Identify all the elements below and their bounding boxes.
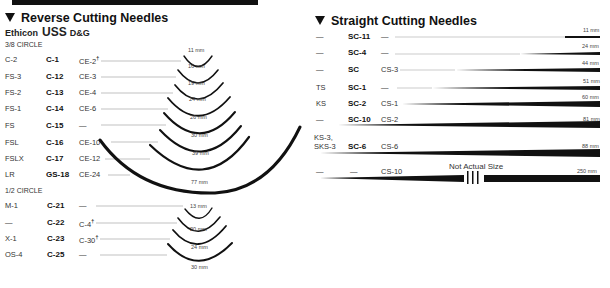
uss-cell: SC-2 [348, 99, 366, 108]
dg-cell: — [381, 32, 389, 41]
not-actual-size-note: Not Actual Size [449, 162, 503, 171]
ethicon-cell: — [316, 32, 324, 41]
size-label: 88 mm [582, 143, 599, 149]
ethicon-cell: — [316, 48, 324, 57]
uss-cell: SC-11 [348, 32, 370, 41]
dg-cell: CS-1 [381, 99, 398, 108]
title-text: Straight Cutting Needles [331, 14, 477, 28]
needle-diagram [0, 0, 610, 288]
uss-cell: SC-1 [348, 83, 366, 92]
ethicon-cell: — [316, 167, 324, 176]
uss-cell: SC [348, 65, 359, 74]
dg-cell: — [381, 48, 389, 57]
size-label: 30 mm [191, 132, 208, 138]
ethicon-cell: — [316, 65, 324, 74]
dg-cell: CS-2 [381, 115, 398, 124]
triangle-down-icon [315, 16, 325, 25]
size-label: 51 mm [583, 78, 600, 84]
size-label: 39 mm [192, 150, 209, 156]
size-label: 77 mm [191, 179, 208, 185]
ethicon-cell: KS [316, 99, 326, 108]
ethicon-cell: — [316, 115, 324, 124]
size-label: 24 mm [582, 43, 599, 49]
size-label: 81 mm [583, 116, 600, 122]
uss-cell: SC-4 [348, 48, 366, 57]
dg-cell: CS-10 [381, 167, 402, 176]
size-label: 250 mm [577, 168, 597, 174]
size-label: 26 mm [190, 114, 207, 120]
size-label: 60 mm [582, 94, 599, 100]
size-label: 44 mm [582, 60, 599, 66]
straight-cutting-title: Straight Cutting Needles [315, 14, 477, 28]
dg-cell: — [381, 83, 389, 92]
size-label: 13 mm [190, 203, 207, 209]
size-label: 30 mm [191, 264, 208, 270]
uss-cell: SC-10 [348, 115, 371, 124]
size-label: 16 mm [188, 63, 205, 69]
size-label: 20 mm [190, 226, 207, 232]
size-label: 19 mm [188, 80, 205, 86]
ethicon-cell: KS-3, SKS-3 [314, 133, 336, 151]
uss-cell: SC-6 [348, 142, 366, 151]
size-label: 11 mm [188, 47, 204, 53]
ethicon-cell: TS [316, 83, 326, 92]
uss-cell: — [350, 167, 358, 176]
dg-cell: CS-6 [381, 142, 398, 151]
leader-lines [96, 61, 183, 255]
size-label: 24 mm [189, 96, 206, 102]
dg-cell: CS-3 [381, 65, 398, 74]
size-label: 11 mm [583, 27, 599, 33]
size-label: 24 mm [191, 244, 208, 250]
